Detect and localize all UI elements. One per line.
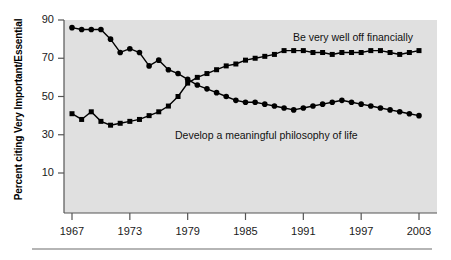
series-label-financial: Be very well off financially [293,31,413,43]
data-point-square [320,50,325,55]
x-tick-label: 1985 [224,225,268,237]
y-tick-label: 70 [30,51,54,63]
data-point-circle [108,36,114,42]
y-tick-label: 30 [30,128,54,140]
data-point-square [185,81,190,86]
x-tick-label: 1973 [108,225,152,237]
data-point-square [79,117,84,122]
data-point-square [176,94,181,99]
x-tick-label: 1991 [281,225,325,237]
data-point-square [89,109,94,114]
data-point-circle [175,71,181,77]
y-tick-label: 50 [30,90,54,102]
data-point-square [156,109,161,114]
data-point-circle [98,27,104,33]
data-point-circle [407,111,413,117]
data-point-square [282,48,287,53]
data-point-square [368,48,373,53]
data-point-square [397,52,402,57]
data-point-circle [272,103,278,109]
data-point-square [262,54,267,59]
data-point-square [407,50,412,55]
data-point-square [272,52,277,57]
data-point-circle [310,103,316,109]
data-point-circle [291,107,297,113]
y-tick-label: 90 [30,13,54,25]
data-point-square [417,48,422,53]
data-point-square [378,48,383,53]
data-point-square [195,75,200,80]
data-point-circle [233,98,239,104]
data-point-square [214,67,219,72]
data-point-circle [262,101,268,107]
data-point-square [291,48,296,53]
data-point-circle [127,46,133,52]
data-point-square [243,58,248,63]
data-point-square [330,52,335,57]
bottom-divider [32,248,432,250]
data-point-circle [301,105,307,111]
data-point-square [253,56,258,61]
data-point-square [224,63,229,68]
x-tick-label: 1967 [50,225,94,237]
data-point-square [388,50,393,55]
data-point-circle [146,63,152,69]
data-point-circle [88,27,94,33]
data-point-circle [214,90,220,96]
data-point-circle [204,86,210,92]
data-point-circle [397,109,403,115]
data-point-circle [252,99,258,105]
x-tick-label: 1979 [166,225,210,237]
plot-area-wrapper: 9070503010 1967197319791985199119972003 … [0,0,451,260]
data-point-circle [243,99,249,105]
data-point-circle [195,82,201,88]
data-point-circle [329,99,335,105]
data-point-square [147,113,152,118]
data-point-square [339,50,344,55]
x-axis-ticks [72,213,419,220]
data-point-circle [281,105,287,111]
data-point-square [359,50,364,55]
data-point-circle [69,25,75,31]
data-point-circle [117,50,123,56]
data-point-circle [339,98,345,104]
data-point-circle [137,50,143,56]
data-point-circle [156,57,162,63]
data-point-square [127,119,132,124]
data-point-circle [166,67,172,73]
data-point-circle [416,113,422,119]
data-point-square [233,61,238,66]
data-point-square [98,119,103,124]
chart-figure: Percent citing Very Important/Essential … [0,0,451,260]
data-point-circle [349,99,355,105]
data-point-circle [387,107,393,113]
data-point-circle [320,101,326,107]
data-point-circle [223,94,229,100]
x-tick-label: 1997 [339,225,383,237]
data-point-square [301,48,306,53]
x-tick-label: 2003 [397,225,441,237]
data-point-circle [358,101,364,107]
data-point-square [118,121,123,126]
data-point-circle [368,103,374,109]
data-point-square [166,104,171,109]
data-point-square [108,123,113,128]
data-point-square [70,111,75,116]
data-point-square [137,117,142,122]
data-point-square [349,50,354,55]
y-axis-ticks [58,20,64,173]
series-label-philosophy: Develop a meaningful philosophy of life [175,129,358,141]
data-point-circle [79,27,85,33]
data-point-circle [378,105,384,111]
data-point-square [310,50,315,55]
data-point-square [204,71,209,76]
y-tick-label: 10 [30,166,54,178]
